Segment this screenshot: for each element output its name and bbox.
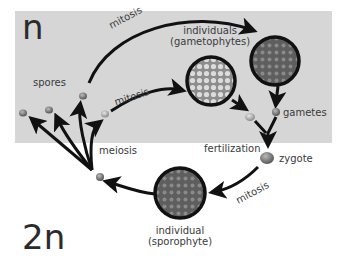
- spore-3: [79, 93, 87, 100]
- gametophytes-label: individuals (gametophytes): [170, 25, 250, 47]
- arrow-to-gamete-light: [232, 100, 244, 108]
- arrow-to-meiocyte: [108, 182, 155, 194]
- gametophyte-dark-cell: [251, 37, 299, 85]
- gametophytes-label-line2: (gametophytes): [170, 36, 250, 47]
- arrow-meiosis-4: [91, 123, 99, 170]
- fertilization-label: fertilization: [204, 143, 261, 154]
- meiocyte: [96, 173, 104, 181]
- sporophyte-label: individual (sporophyte): [140, 225, 220, 247]
- diploid-label: 2n: [22, 220, 65, 254]
- zygote-label: zygote: [279, 153, 313, 164]
- meiosis-label: meiosis: [99, 145, 137, 156]
- gamete-dark: [272, 108, 280, 116]
- sporophyte-label-line2: (sporophyte): [140, 236, 220, 247]
- sporophyte-cell: [155, 168, 205, 218]
- haploid-label: n: [22, 10, 44, 44]
- gametes-label: gametes: [283, 107, 327, 118]
- zygote-cell: [260, 152, 274, 164]
- spore-4: [101, 111, 109, 118]
- spore-2: [45, 107, 53, 114]
- gametophytes-label-line1: individuals: [170, 25, 250, 36]
- gametophyte-light-cell: [187, 57, 235, 105]
- sporophyte-label-line1: individual: [140, 225, 220, 236]
- gamete-light: [245, 113, 255, 121]
- arrow-fertilization: [255, 117, 276, 143]
- spores-label: spores: [33, 77, 66, 88]
- arrow-to-gamete-dark: [276, 86, 278, 103]
- spore-1: [19, 110, 27, 117]
